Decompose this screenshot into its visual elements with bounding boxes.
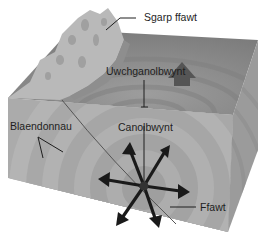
label-wavefronts: Blaendonnau — [10, 121, 72, 132]
label-focus: Canolbwynt — [118, 122, 173, 133]
label-fault: Ffawt — [200, 202, 226, 213]
label-epicentre: Uwchganolbwynt — [106, 66, 185, 77]
block-diagram — [0, 0, 269, 236]
label-fault-scarp: Sgarp ffawt — [144, 12, 197, 23]
focus-point — [140, 182, 149, 191]
